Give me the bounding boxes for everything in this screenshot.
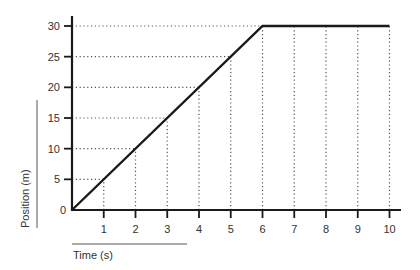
y-axis-title: Position (m) <box>19 169 31 228</box>
y-tick-label-30: 30 <box>48 20 60 32</box>
y-tick-label-5: 5 <box>54 173 60 185</box>
ticks: 5101520253012345678910 <box>48 20 396 235</box>
y-tick-label-10: 10 <box>48 143 60 155</box>
x-tick-label-2: 2 <box>132 223 138 235</box>
x-tick-label-7: 7 <box>291 223 297 235</box>
x-tick-label-3: 3 <box>164 223 170 235</box>
x-axis-title: Time (s) <box>73 249 113 261</box>
position-time-chart: 5101520253012345678910 0 Position (m) Ti… <box>0 0 420 270</box>
x-tick-label-8: 8 <box>323 223 329 235</box>
origin-label: 0 <box>60 204 66 216</box>
grid-lines <box>72 26 390 210</box>
axes <box>71 16 401 211</box>
x-tick-label-6: 6 <box>259 223 265 235</box>
x-tick-label-9: 9 <box>355 223 361 235</box>
y-tick-label-15: 15 <box>48 112 60 124</box>
x-tick-label-5: 5 <box>228 223 234 235</box>
x-tick-label-4: 4 <box>196 223 202 235</box>
y-tick-label-20: 20 <box>48 81 60 93</box>
y-tick-label-25: 25 <box>48 51 60 63</box>
x-tick-label-1: 1 <box>101 223 107 235</box>
x-tick-label-10: 10 <box>383 223 395 235</box>
